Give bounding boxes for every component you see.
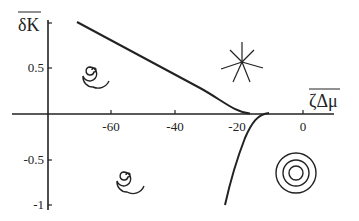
svg-text:δK: δK (18, 15, 39, 35)
y-tick-label-neg0.5: -0.5 (23, 152, 44, 167)
y-tick-label-0.5: 0.5 (28, 60, 44, 75)
spiral-icon-upper-left (83, 67, 109, 88)
x-tick-label-0: 0 (300, 119, 307, 134)
phase-diagram: 0.5 -0.5 -1 -60 -40 -20 0 δK ζΔμ (0, 0, 359, 221)
y-tick-label-neg1: -1 (33, 197, 44, 212)
x-tick-label-neg40: -40 (166, 119, 183, 134)
center-icon (276, 153, 316, 193)
x-tick-label-neg20: -20 (228, 119, 245, 134)
y-axis-title: δK (18, 12, 41, 35)
svg-text:ζΔμ: ζΔμ (309, 91, 338, 111)
x-tick-label-neg60: -60 (102, 119, 119, 134)
x-axis-title: ζΔμ (309, 89, 340, 111)
star-node-icon (221, 42, 263, 82)
spiral-icon-lower-left (117, 172, 144, 194)
